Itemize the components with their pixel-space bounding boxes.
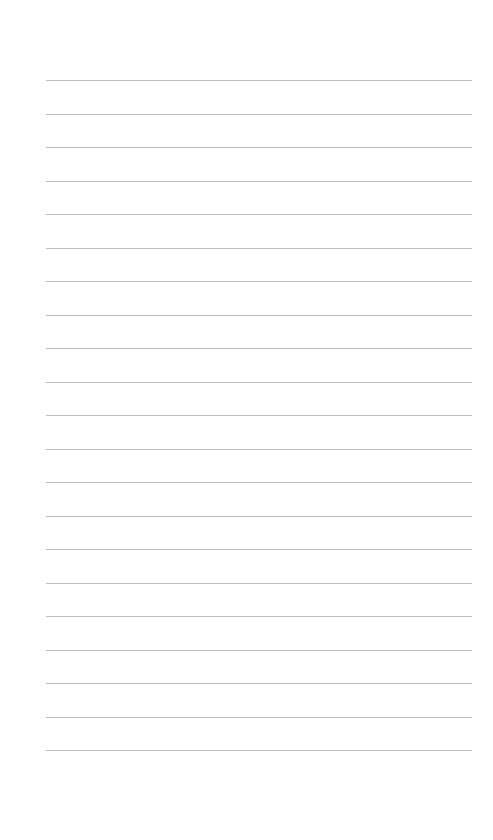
ruled-line xyxy=(46,549,472,550)
ruled-line xyxy=(46,114,472,115)
ruled-line xyxy=(46,616,472,617)
ruled-line xyxy=(46,583,472,584)
ruled-line xyxy=(46,147,472,148)
lined-paper-page xyxy=(0,0,493,840)
ruled-line xyxy=(46,315,472,316)
ruled-line xyxy=(46,281,472,282)
ruled-line xyxy=(46,382,472,383)
ruled-line xyxy=(46,683,472,684)
ruled-line xyxy=(46,348,472,349)
ruled-line xyxy=(46,80,472,81)
ruled-line xyxy=(46,516,472,517)
ruled-line xyxy=(46,750,472,751)
ruled-line xyxy=(46,415,472,416)
ruled-line xyxy=(46,482,472,483)
ruled-line xyxy=(46,248,472,249)
ruled-line xyxy=(46,449,472,450)
ruled-line xyxy=(46,650,472,651)
ruled-line xyxy=(46,214,472,215)
ruled-line xyxy=(46,717,472,718)
ruled-line xyxy=(46,181,472,182)
